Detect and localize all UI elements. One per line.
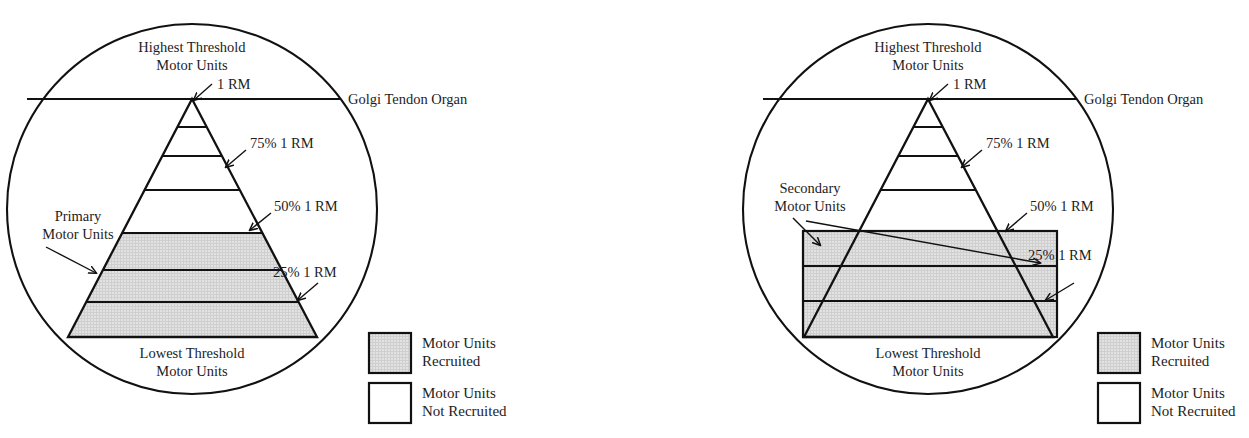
intensity-label-50-percent: 50% 1 RM	[274, 198, 338, 214]
highest-threshold-label-right-line1: Highest Threshold	[874, 39, 982, 55]
legend-swatch-not-recruited-right	[1098, 383, 1140, 423]
legend-label-recruited-line2: Recruited	[422, 353, 481, 369]
highest-threshold-label-right-line2: Motor Units	[892, 57, 964, 73]
intensity-label-25-percent-right: 25% 1 RM	[1028, 247, 1092, 263]
highest-threshold-label-line2: Motor Units	[156, 57, 228, 73]
figure-root: Golgi Tendon Organ Highest Threshold Mot…	[0, 0, 1249, 438]
legend-label-recruited-line1: Motor Units	[422, 335, 496, 351]
arrow-1rm	[194, 84, 212, 100]
legend-swatch-recruited-right	[1098, 333, 1140, 373]
intensity-label-50-percent-right: 50% 1 RM	[1030, 198, 1094, 214]
legend-label-not-recruited-right-line1: Motor Units	[1151, 385, 1225, 401]
lowest-threshold-label-line1: Lowest Threshold	[140, 345, 246, 361]
lowest-threshold-label-line2: Motor Units	[156, 363, 228, 379]
highest-threshold-label-line1: Highest Threshold	[138, 39, 246, 55]
arrow-primary-motor-units	[46, 247, 96, 273]
arrow-50-percent-right	[1006, 213, 1027, 231]
golgi-tendon-organ-label: Golgi Tendon Organ	[348, 91, 468, 107]
intensity-label-1rm: 1 RM	[217, 76, 251, 92]
legend-right: Motor Units Recruited Motor Units Not Re…	[1098, 333, 1236, 423]
intensity-label-75-percent-right: 75% 1 RM	[986, 135, 1050, 151]
intensity-label-1rm-right: 1 RM	[953, 76, 987, 92]
primary-motor-units-label-line2: Motor Units	[42, 226, 114, 242]
secondary-motor-units-label-line2: Motor Units	[774, 198, 846, 214]
arrow-25-percent	[298, 283, 318, 300]
legend-swatch-recruited	[369, 333, 411, 373]
motor-unit-recruitment-figure: Golgi Tendon Organ Highest Threshold Mot…	[0, 0, 1249, 438]
recruited-region-left	[40, 233, 350, 338]
legend-left: Motor Units Recruited Motor Units Not Re…	[369, 333, 507, 423]
arrow-75-percent-right	[962, 150, 982, 167]
legend-label-recruited-right-line2: Recruited	[1151, 353, 1210, 369]
legend-label-recruited-right-line1: Motor Units	[1151, 335, 1225, 351]
golgi-tendon-organ-label-right: Golgi Tendon Organ	[1084, 91, 1204, 107]
arrow-75-percent	[226, 150, 246, 167]
secondary-motor-units-label-line1: Secondary	[779, 180, 841, 196]
legend-label-not-recruited-right-line2: Not Recruited	[1151, 403, 1236, 419]
lowest-threshold-label-right-line2: Motor Units	[892, 363, 964, 379]
lowest-threshold-label-right-line1: Lowest Threshold	[876, 345, 982, 361]
arrow-1rm-right	[930, 84, 948, 100]
intensity-label-25-percent: 25% 1 RM	[273, 264, 337, 280]
intensity-label-75-percent: 75% 1 RM	[250, 135, 314, 151]
legend-label-not-recruited-line1: Motor Units	[422, 385, 496, 401]
legend-label-not-recruited-line2: Not Recruited	[422, 403, 507, 419]
legend-swatch-not-recruited	[369, 383, 411, 423]
recruited-region-right	[803, 231, 1057, 337]
primary-motor-units-label-line1: Primary	[55, 208, 102, 224]
